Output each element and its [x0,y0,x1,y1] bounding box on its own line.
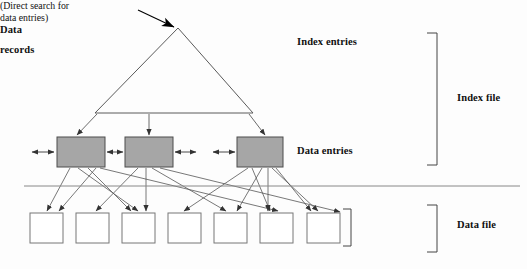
index-file-bracket [427,33,437,165]
data-entry-node [237,137,283,167]
data-file-label: Data file [457,219,496,231]
data-record-box [122,213,155,243]
data-record-box [307,213,340,243]
data-entry-node [125,137,173,167]
index-to-node-1-arrow [77,114,97,135]
data-entry-to-record-pointers [47,168,340,212]
data-records-bracket [343,209,351,246]
data-record-box [260,213,293,243]
data-record-box [76,213,109,243]
data-record-boxes [30,213,340,243]
index-entries-label: Index entries [297,36,357,48]
diagram-canvas: Index entries (Direct search for data en… [0,0,527,269]
index-file-label: Index file [457,92,500,104]
index-triangle [95,28,253,113]
data-file-bracket [427,205,437,252]
data-entry-node [57,137,105,167]
data-record-box [214,213,247,243]
search-entry-arrow [138,10,174,27]
diagram-svg [0,0,527,269]
data-entries-label: Data entries [297,145,353,157]
data-record-box [168,213,201,243]
data-record-box [30,213,63,243]
index-to-node-3-arrow [249,114,265,135]
